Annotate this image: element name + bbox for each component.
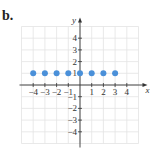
data-point <box>42 70 48 76</box>
data-point <box>65 70 71 76</box>
x-tick-label: −2 <box>52 87 62 97</box>
data-point <box>30 70 36 76</box>
y-tick-label: 1 <box>73 68 78 78</box>
x-tick-label: 4 <box>125 87 130 97</box>
x-tick-label: 1 <box>89 87 94 97</box>
data-point <box>54 70 60 76</box>
x-tick-label: −3 <box>40 87 50 97</box>
y-tick-label: −3 <box>67 115 77 125</box>
x-tick-label: −4 <box>28 87 38 97</box>
y-axis-arrow-icon <box>78 18 82 23</box>
y-tick-label: 4 <box>73 33 78 43</box>
scatter-plot: xy −4−3−2−112344321−1−2−3−4 <box>0 0 157 150</box>
y-tick-label: −2 <box>67 103 77 113</box>
x-tick-label: 2 <box>101 87 106 97</box>
axes: xy <box>20 15 150 148</box>
y-tick-label: 2 <box>73 57 78 67</box>
y-axis-label: y <box>71 15 76 25</box>
y-tick-label: 3 <box>73 45 78 55</box>
data-point <box>77 70 83 76</box>
y-tick-label: −1 <box>67 92 77 102</box>
data-point <box>112 70 118 76</box>
x-tick-label: 3 <box>113 87 118 97</box>
data-point <box>100 70 106 76</box>
y-tick-label: −4 <box>67 127 77 137</box>
data-point <box>89 70 95 76</box>
x-axis-label: x <box>145 85 150 95</box>
